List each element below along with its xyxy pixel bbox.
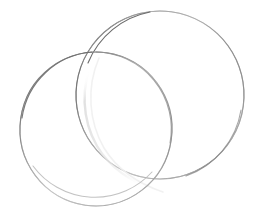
background-plate xyxy=(0,0,258,217)
rings-illustration xyxy=(0,0,258,217)
image-canvas xyxy=(0,0,258,217)
